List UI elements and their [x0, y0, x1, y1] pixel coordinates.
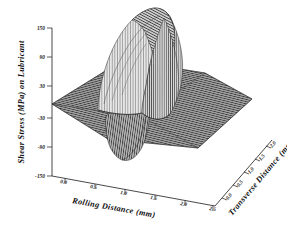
surface-plot-figure: 150 90 30 -30 -90 -150 Shear Stress (MPa…: [0, 0, 287, 235]
y-tick-label: -90: [38, 144, 45, 150]
plot-canvas: 150 90 30 -30 -90 -150 Shear Stress (MPa…: [0, 0, 287, 235]
x-tick-label: 1.5: [150, 194, 158, 201]
y-tick-label: -30: [38, 115, 45, 121]
y-tick-label: 90: [40, 54, 46, 60]
x-tick-label: 1.0: [120, 189, 128, 196]
y-axis-title: Shear Stress (MPa) on Lubricant: [17, 40, 26, 164]
x-tick-label: 0.0: [60, 178, 68, 185]
y-tick-label: -150: [35, 173, 45, 179]
y-tick-label: 30: [39, 83, 46, 89]
y-tick-label: 150: [37, 25, 45, 31]
x-tick-label: 0.5: [90, 183, 98, 190]
